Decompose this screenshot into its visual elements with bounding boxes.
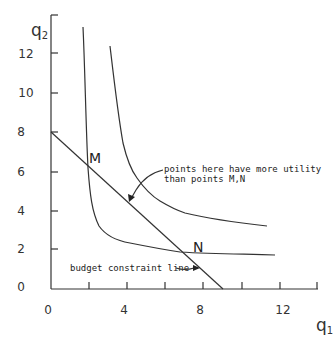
indifference-curve-chart: 12 10 8 6 4 2 0 0 4 8 12 q2 q1 M N point… [0, 0, 336, 346]
y-tick-0: 0 [17, 280, 25, 294]
budget-constraint-label: budget constraint line [70, 263, 189, 273]
utility-annotation-line2: than points M,N [164, 174, 245, 184]
utility-annotation-line1: points here have more utility [164, 164, 322, 174]
y-tick-10: 10 [18, 86, 33, 100]
x-tick-4: 4 [120, 303, 128, 317]
x-ticks [89, 282, 317, 289]
x-tick-12: 12 [275, 303, 290, 317]
y-tick-2: 2 [17, 242, 25, 256]
point-n-label: N [193, 239, 203, 255]
x-tick-8: 8 [196, 303, 204, 317]
x-axis-label: q1 [316, 315, 333, 336]
utility-annotation-arrow [132, 170, 163, 197]
y-tick-6: 6 [17, 165, 25, 179]
y-tick-labels: 12 10 8 6 4 2 0 [17, 47, 33, 294]
y-axis-label: q2 [31, 20, 48, 41]
x-tick-labels: 0 4 8 12 [44, 303, 290, 317]
y-tick-4: 4 [17, 204, 25, 218]
y-ticks [51, 15, 58, 249]
arrowhead-icon [128, 194, 135, 202]
x-tick-0: 0 [44, 303, 52, 317]
y-tick-8: 8 [17, 125, 25, 139]
indifference-curve-higher [110, 46, 267, 226]
y-tick-12: 12 [18, 47, 33, 61]
point-m-label: M [89, 150, 101, 166]
arrowhead-icon [193, 265, 200, 271]
